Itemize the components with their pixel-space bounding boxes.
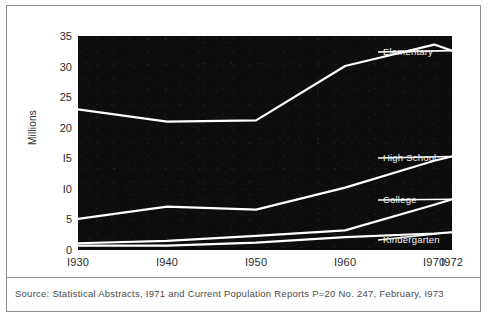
source-divider xyxy=(7,277,480,278)
y-tick-label: 25 xyxy=(46,91,72,103)
series-lines xyxy=(78,36,452,250)
line-chart: Millions 05I0I520253035 ElementaryHigh S… xyxy=(0,0,488,279)
y-tick-label: 35 xyxy=(46,30,72,42)
plot-area: ElementaryHigh SchoolCollegeKindergarten xyxy=(78,36,452,250)
y-axis-title: Millions xyxy=(27,88,38,168)
x-axis-ticks: I930I940I950I960I970I972 xyxy=(0,256,488,272)
y-tick-label: I0 xyxy=(46,183,72,195)
series-label-kindergarten: Kindergarten xyxy=(383,234,440,245)
series-line xyxy=(78,156,452,218)
y-tick-label: 30 xyxy=(46,61,72,73)
chart-page: Millions 05I0I520253035 ElementaryHigh S… xyxy=(0,0,488,319)
y-tick-label: 5 xyxy=(46,213,72,225)
x-tick-label: I960 xyxy=(334,256,356,268)
y-tick-label: 20 xyxy=(46,122,72,134)
y-tick-label: I5 xyxy=(46,152,72,164)
y-axis-ticks: 05I0I520253035 xyxy=(44,36,72,250)
x-tick-label: I930 xyxy=(67,256,89,268)
series-label-college: College xyxy=(383,194,417,205)
series-label-elementary: Elementary xyxy=(383,46,433,57)
x-tick-label: I940 xyxy=(156,256,178,268)
x-tick-label: I972 xyxy=(441,256,463,268)
y-tick-label: 0 xyxy=(46,244,72,256)
series-label-high-school: High School xyxy=(383,152,436,163)
source-note: Source: Statistical Abstracts, I971 and … xyxy=(15,288,444,299)
x-tick-label: I950 xyxy=(245,256,267,268)
